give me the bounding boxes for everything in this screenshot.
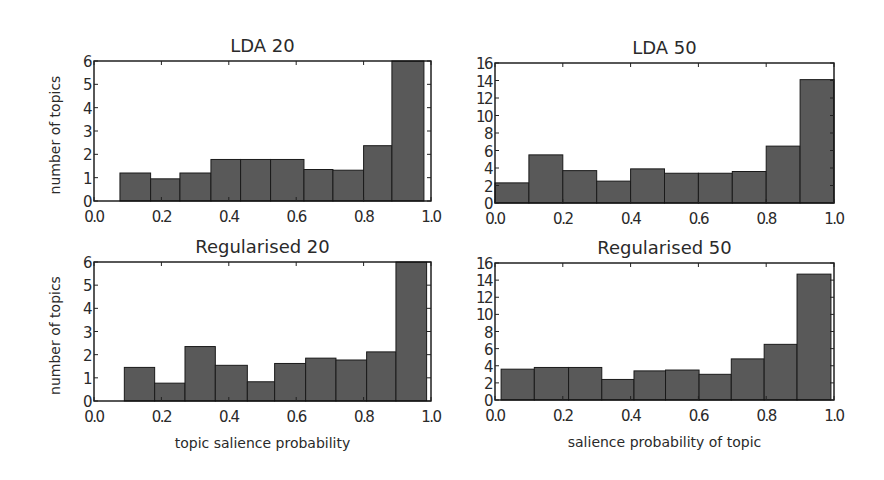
histogram-bar (764, 344, 797, 400)
histogram-bar (501, 369, 534, 400)
x-tick-label: 0.6 (689, 210, 709, 228)
y-tick-label: 6 (83, 53, 92, 71)
histogram-bar (151, 179, 180, 201)
subplot-title: Regularised 20 (195, 236, 330, 257)
bars (120, 61, 424, 201)
histogram-bar (631, 169, 665, 203)
x-tick-label: 0.2 (152, 408, 172, 426)
y-tick-label: 10 (476, 108, 493, 126)
histogram-bar (534, 367, 568, 400)
y-tick-label: 2 (484, 178, 493, 196)
histogram-bar (241, 159, 271, 201)
histogram-bar (634, 371, 666, 400)
x-tick-label: 0.8 (757, 407, 777, 425)
y-axis-label: number of topics (47, 276, 63, 395)
histogram-bar (336, 360, 367, 401)
histogram-bar (271, 159, 304, 201)
histogram-bar (180, 173, 211, 201)
x-tick-label: 0.6 (287, 208, 307, 226)
x-tick-label: 0.8 (757, 210, 777, 228)
x-tick-label: 0.4 (621, 407, 641, 425)
y-tick-label: 8 (484, 125, 493, 143)
y-tick-label: 6 (83, 254, 92, 272)
y-tick-label: 5 (83, 76, 92, 94)
y-tick-label: 4 (484, 160, 493, 178)
y-tick-label: 6 (484, 143, 493, 161)
histogram-bar (124, 367, 154, 401)
histogram-bar (529, 155, 563, 203)
x-axis-label: salience probability of topic (568, 434, 762, 450)
y-tick-label: 10 (476, 306, 493, 324)
histogram-bar (699, 374, 731, 400)
histogram-bar (698, 173, 732, 203)
x-tick-label: 0.4 (219, 408, 239, 426)
bars (501, 274, 831, 400)
subplot-title: LDA 50 (632, 37, 697, 58)
histogram-bar (665, 173, 699, 203)
y-tick-label: 12 (476, 289, 493, 307)
histogram-bar (800, 80, 834, 203)
histogram-bar (364, 146, 392, 201)
y-axis-label: number of topics (47, 76, 63, 195)
histogram-figure: 0.00.20.40.60.81.00123456LDA 20number of… (0, 0, 884, 480)
y-tick-label: 0 (484, 392, 493, 410)
histogram-bar (602, 379, 634, 400)
y-tick-label: 3 (83, 324, 92, 342)
x-tick-label: 1.0 (421, 408, 441, 426)
y-tick-label: 2 (83, 347, 92, 365)
x-tick-label: 0.2 (152, 208, 172, 226)
subplot-regularised50: 0.00.20.40.60.81.00246810121416Regularis… (476, 237, 845, 450)
histogram-bar (495, 183, 529, 203)
subplot-lda20: 0.00.20.40.60.81.00123456LDA 20number of… (47, 35, 442, 226)
histogram-bar (306, 358, 336, 401)
x-tick-label: 0.6 (287, 408, 307, 426)
histogram-bar (247, 382, 274, 401)
histogram-bar (392, 61, 424, 201)
y-tick-label: 2 (484, 375, 493, 393)
y-tick-label: 2 (83, 146, 92, 164)
histogram-bar (569, 367, 602, 400)
subplot-regularised20: 0.00.20.40.60.81.00123456Regularised 20t… (47, 236, 442, 451)
subplot-lda50: 0.00.20.40.60.81.00246810121416LDA 50 (476, 37, 845, 228)
y-tick-label: 1 (83, 370, 92, 388)
x-axis-label: topic salience probability (175, 435, 351, 451)
histogram-bar (155, 383, 185, 401)
histogram-bar (766, 146, 800, 203)
histogram-bar (396, 262, 427, 401)
x-tick-label: 0.2 (553, 210, 573, 228)
histogram-bar (367, 352, 396, 401)
x-tick-label: 0.8 (354, 408, 374, 426)
histogram-bar (185, 347, 215, 401)
y-tick-label: 0 (83, 193, 92, 211)
y-tick-label: 4 (484, 358, 493, 376)
histogram-bar (666, 370, 700, 400)
histogram-bar (797, 274, 831, 400)
y-tick-label: 16 (476, 55, 493, 73)
y-tick-label: 12 (476, 90, 493, 108)
x-tick-label: 1.0 (421, 208, 441, 226)
y-tick-label: 0 (484, 195, 493, 213)
bars (495, 80, 834, 203)
histogram-bar (304, 170, 333, 202)
y-tick-label: 5 (83, 277, 92, 295)
histogram-bar (597, 181, 631, 203)
subplot-title: LDA 20 (230, 35, 295, 56)
y-tick-label: 16 (476, 255, 493, 273)
histogram-bar (120, 173, 151, 201)
subplot-title: Regularised 50 (597, 237, 732, 258)
histogram-bar (211, 159, 241, 201)
x-tick-label: 0.8 (354, 208, 374, 226)
x-tick-label: 1.0 (824, 210, 844, 228)
y-tick-label: 3 (83, 123, 92, 141)
y-tick-label: 6 (484, 341, 493, 359)
histogram-bar (732, 172, 766, 204)
x-tick-label: 0.2 (553, 407, 573, 425)
y-tick-label: 8 (484, 324, 493, 342)
x-tick-label: 0.4 (621, 210, 641, 228)
y-tick-label: 14 (476, 73, 493, 91)
x-tick-label: 0.6 (689, 407, 709, 425)
y-tick-label: 1 (83, 170, 92, 188)
y-tick-label: 4 (83, 100, 92, 118)
x-tick-label: 0.4 (219, 208, 239, 226)
x-tick-label: 1.0 (824, 407, 844, 425)
